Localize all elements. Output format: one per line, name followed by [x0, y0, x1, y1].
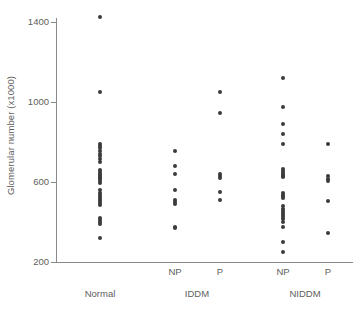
data-point [326, 231, 330, 235]
data-point [98, 15, 102, 19]
data-point [218, 90, 222, 94]
x-axis-sublabel-p: P [325, 266, 331, 277]
y-tick-mark [51, 182, 56, 183]
data-point [173, 164, 177, 168]
data-point [98, 160, 102, 164]
data-point [218, 190, 222, 194]
data-point [326, 199, 330, 203]
data-point [173, 188, 177, 192]
data-point [281, 250, 285, 254]
data-point [281, 122, 285, 126]
data-point [98, 181, 102, 185]
data-point [98, 236, 102, 240]
plot-area [56, 16, 353, 263]
y-tick-label: 1400 [3, 17, 49, 27]
data-point [281, 76, 285, 80]
data-point [281, 196, 285, 200]
x-axis-sublabel-p: P [217, 266, 223, 277]
y-tick-label: 600 [3, 177, 49, 187]
x-axis-group-label-normal: Normal [85, 288, 116, 299]
data-point [281, 240, 285, 244]
data-point [173, 149, 177, 153]
data-point [98, 203, 102, 207]
data-point [281, 142, 285, 146]
x-axis-sublabel-np: NP [168, 266, 181, 277]
x-axis-group-label-iddm: IDDM [185, 288, 209, 299]
data-point [218, 198, 222, 202]
data-point [98, 222, 102, 226]
dot-plot-figure: Glomerular number (x1000) 20060010001400… [0, 0, 363, 314]
data-point [326, 142, 330, 146]
data-point [173, 202, 177, 206]
data-point [218, 176, 222, 180]
data-point [281, 175, 285, 179]
y-tick-mark [51, 262, 56, 263]
y-tick-mark [51, 102, 56, 103]
y-tick-label: 1000 [3, 97, 49, 107]
x-axis-group-label-niddm: NIDDM [289, 288, 320, 299]
data-point [281, 220, 285, 224]
y-tick-mark [51, 22, 56, 23]
data-point [281, 132, 285, 136]
data-point [173, 172, 177, 176]
data-point [218, 111, 222, 115]
x-axis-sublabel-np: NP [276, 266, 289, 277]
y-axis-tick-labels: 20060010001400 [0, 0, 49, 300]
data-point [281, 105, 285, 109]
data-point [98, 90, 102, 94]
data-point [326, 179, 330, 183]
data-point [281, 225, 285, 229]
y-tick-label: 200 [3, 257, 49, 267]
data-point [173, 226, 177, 230]
